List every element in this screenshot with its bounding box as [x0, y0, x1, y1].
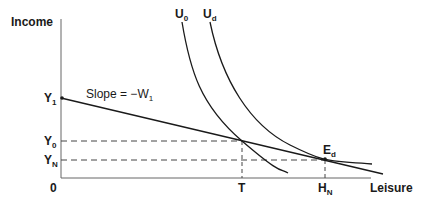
budget-line: [61, 98, 383, 174]
t-label: T: [238, 181, 246, 195]
y1-label: Y1: [44, 91, 57, 107]
hn-label: HN: [318, 181, 333, 197]
origin-label: 0: [50, 181, 57, 195]
slope-label: Slope = −W1: [86, 87, 154, 103]
indifference-curve-ud: [210, 22, 372, 164]
ed-point: [323, 157, 327, 161]
y-axis-label: Income: [11, 15, 53, 29]
labor-leisure-diagram: Income Leisure 0 Y1 Y0 YN T HN U0 Ud Ed …: [0, 0, 426, 200]
ed-label: Ed: [323, 143, 336, 159]
x-axis-label: Leisure: [370, 181, 413, 195]
yn-label: YN: [44, 153, 58, 169]
u0-label: U0: [175, 7, 189, 23]
y1-point: [60, 96, 64, 100]
indifference-curve-u0: [182, 22, 288, 173]
y0-label: Y0: [44, 134, 57, 150]
ud-label: Ud: [203, 7, 217, 23]
